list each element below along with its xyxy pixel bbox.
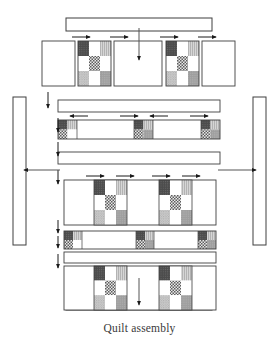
four-patch-cornerstone[interactable] (198, 231, 216, 249)
plain-square[interactable] (42, 41, 75, 86)
middle-row-frame[interactable] (64, 180, 216, 225)
bottom-row-frame[interactable] (64, 266, 216, 310)
right-border-strip[interactable] (253, 97, 266, 245)
ninepatch-block[interactable] (159, 266, 192, 310)
upper-sashing-strip[interactable] (58, 100, 220, 112)
quilt-assembly-diagram (0, 0, 279, 347)
four-patch-cornerstone[interactable] (58, 120, 77, 139)
four-patch-cornerstone[interactable] (201, 120, 220, 139)
left-border-strip[interactable] (13, 97, 26, 245)
cornerstone-sashing-row-upper[interactable] (58, 120, 220, 139)
four-patch-cornerstone[interactable] (134, 120, 153, 139)
plain-square[interactable] (202, 41, 235, 86)
cornerstone-sashing-row-lower[interactable] (64, 231, 216, 249)
figure-caption: Quilt assembly (0, 322, 279, 334)
four-patch-cornerstone[interactable] (136, 231, 154, 249)
middle-block-row (64, 180, 216, 225)
ninepatch-block[interactable] (94, 180, 127, 225)
ninepatch-block[interactable] (78, 41, 111, 86)
lower-sashing-strip[interactable] (64, 252, 216, 263)
ninepatch-block[interactable] (94, 266, 127, 310)
bottom-block-row (64, 266, 216, 310)
four-patch-cornerstone[interactable] (64, 231, 82, 249)
middle-sashing-strip[interactable] (58, 152, 220, 164)
ninepatch-block[interactable] (166, 41, 199, 86)
ninepatch-block[interactable] (159, 180, 192, 225)
plain-square[interactable] (114, 41, 162, 86)
